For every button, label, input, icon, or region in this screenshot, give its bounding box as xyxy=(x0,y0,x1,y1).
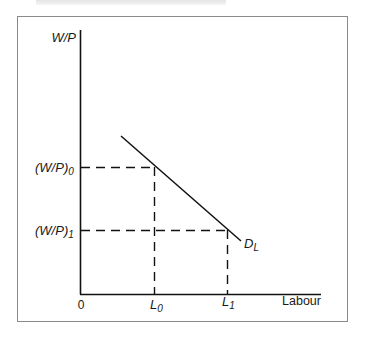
demand-curve-label: DL xyxy=(244,236,259,253)
x-tick-label-0: L0 xyxy=(150,297,163,314)
labour-demand-diagram: W/P (W/P)0 (W/P)1 0 L0 L1 Labour DL xyxy=(0,0,365,338)
y-axis-label: W/P xyxy=(51,30,76,45)
origin-label: 0 xyxy=(78,298,85,312)
y-tick-label-1: (W/P)1 xyxy=(35,223,74,240)
x-tick-label-1: L1 xyxy=(222,294,235,311)
demand-curve xyxy=(121,136,241,241)
x-axis-label: Labour xyxy=(282,294,321,308)
y-tick-label-0: (W/P)0 xyxy=(35,160,74,177)
